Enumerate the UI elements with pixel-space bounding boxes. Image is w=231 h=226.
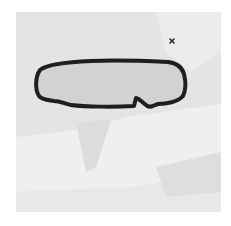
image-panel (16, 12, 221, 212)
scene-graphic (16, 12, 221, 212)
mirror-outline-shape (36, 61, 185, 107)
